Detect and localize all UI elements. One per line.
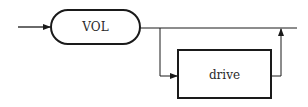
vol-terminal: VOL bbox=[51, 10, 140, 44]
syntax-diagram: VOL drive bbox=[0, 0, 308, 107]
branch-down-line bbox=[160, 28, 177, 76]
drive-nonterminal: drive bbox=[178, 50, 271, 98]
branch-return-line bbox=[271, 29, 281, 76]
drive-label: drive bbox=[209, 68, 240, 82]
vol-label: VOL bbox=[81, 20, 108, 34]
